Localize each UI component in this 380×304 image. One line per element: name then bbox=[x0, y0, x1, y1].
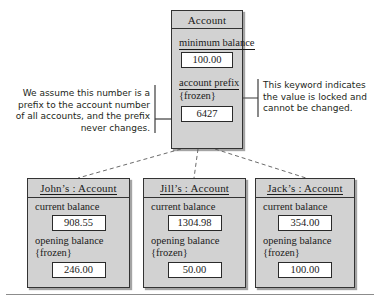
instance-attribute-current-balance-jacks: current balance 354.00 bbox=[263, 201, 347, 231]
attribute-account-prefix: account prefix {frozen} 6427 bbox=[179, 72, 235, 122]
instance-attribute-opening-balance-johns: opening balance {frozen} 246.00 bbox=[35, 235, 122, 278]
instance-attributes-jills: current balance 1304.98 opening balance … bbox=[144, 198, 245, 287]
attribute-name-account-prefix: account prefix bbox=[179, 77, 239, 90]
instance-title-jacks: Jack’s : Account bbox=[256, 179, 354, 197]
link-to-jills bbox=[194, 149, 198, 178]
instance-title-johns: John’s : Account bbox=[28, 179, 129, 197]
instance-attributes-johns: current balance 908.55 opening balance {… bbox=[28, 198, 129, 287]
instance-box-jills[interactable]: Jill’s : Account current balance 1304.98… bbox=[143, 178, 246, 288]
instance-attribute-opening-balance-jacks: opening balance {frozen} 100.00 bbox=[263, 235, 347, 278]
instance-value-current-balance-jacks[interactable]: 354.00 bbox=[278, 215, 332, 231]
instance-value-opening-balance-johns[interactable]: 246.00 bbox=[52, 262, 106, 278]
instance-attributes-jacks: current balance 354.00 opening balance {… bbox=[256, 198, 354, 287]
instance-constraint-frozen-jills: {frozen} bbox=[151, 247, 238, 259]
instance-box-johns[interactable]: John’s : Account current balance 908.55 … bbox=[27, 178, 130, 288]
attribute-constraint-frozen: {frozen} bbox=[179, 90, 235, 102]
instance-attribute-name-opening-balance-jills: opening balance bbox=[151, 235, 238, 247]
instance-box-jacks[interactable]: Jack’s : Account current balance 354.00 … bbox=[255, 178, 355, 288]
instance-attribute-name-current-balance-jacks: current balance bbox=[263, 201, 347, 213]
instance-attribute-name-current-balance-johns: current balance bbox=[35, 201, 122, 213]
class-box-account[interactable]: Account minimum balance 100.00 account p… bbox=[171, 10, 243, 149]
link-to-johns bbox=[78, 149, 181, 178]
link-to-jacks bbox=[215, 149, 306, 178]
class-box-attributes: minimum balance 100.00 account prefix {f… bbox=[172, 29, 242, 131]
instance-value-opening-balance-jacks[interactable]: 100.00 bbox=[278, 262, 332, 278]
instance-value-opening-balance-jills[interactable]: 50.00 bbox=[168, 262, 222, 278]
instance-attribute-current-balance-jills: current balance 1304.98 bbox=[151, 201, 238, 231]
diagram-canvas: Account minimum balance 100.00 account p… bbox=[0, 0, 380, 304]
instance-attribute-name-opening-balance-johns: opening balance bbox=[35, 235, 122, 247]
attribute-value-minimum-balance[interactable]: 100.00 bbox=[181, 52, 233, 68]
attribute-name-minimum-balance: minimum balance bbox=[179, 37, 255, 50]
attribute-minimum-balance: minimum balance 100.00 bbox=[179, 32, 235, 68]
instance-constraint-frozen-johns: {frozen} bbox=[35, 247, 122, 259]
instance-constraint-frozen-jacks: {frozen} bbox=[263, 247, 347, 259]
footer-rule bbox=[6, 294, 374, 295]
instance-attribute-name-current-balance-jills: current balance bbox=[151, 201, 238, 213]
instance-attribute-current-balance-johns: current balance 908.55 bbox=[35, 201, 122, 231]
attribute-value-account-prefix[interactable]: 6427 bbox=[181, 106, 233, 122]
instance-value-current-balance-jills[interactable]: 1304.98 bbox=[168, 215, 222, 231]
annotation-right: This keyword indicates the value is lock… bbox=[263, 80, 375, 115]
instance-attribute-name-opening-balance-jacks: opening balance bbox=[263, 235, 347, 247]
class-box-title: Account bbox=[172, 11, 242, 28]
annotation-left: We assume this number is a prefix to the… bbox=[8, 88, 150, 134]
instance-value-current-balance-johns[interactable]: 908.55 bbox=[52, 215, 106, 231]
instance-attribute-opening-balance-jills: opening balance {frozen} 50.00 bbox=[151, 235, 238, 278]
instance-title-jills: Jill’s : Account bbox=[144, 179, 245, 197]
